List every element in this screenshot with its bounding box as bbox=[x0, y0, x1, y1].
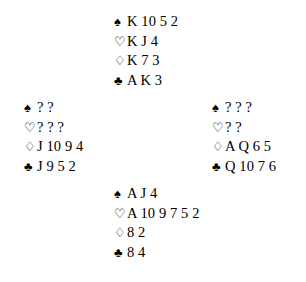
heart-icon: ♡ bbox=[114, 32, 127, 52]
north-clubs-row: ♣A K 3 bbox=[114, 71, 178, 91]
spade-icon: ♠ bbox=[114, 184, 127, 204]
club-icon: ♣ bbox=[114, 71, 127, 91]
south-spades-row: ♠A J 4 bbox=[114, 184, 200, 204]
east-spades-row: ♠? ? ? bbox=[212, 98, 276, 118]
west-spades-cards: ? ? bbox=[37, 98, 54, 118]
south-spades-cards: A J 4 bbox=[127, 184, 157, 204]
west-hearts-cards: ? ? ? bbox=[37, 118, 64, 138]
west-clubs-row: ♣J 9 5 2 bbox=[24, 157, 83, 177]
north-spades-row: ♠K 10 5 2 bbox=[114, 12, 178, 32]
south-clubs-cards: 8 4 bbox=[127, 243, 145, 263]
heart-icon: ♡ bbox=[24, 118, 37, 138]
east-hearts-row: ♡? ? bbox=[212, 118, 276, 138]
heart-icon: ♡ bbox=[114, 204, 127, 224]
heart-icon: ♡ bbox=[212, 118, 225, 138]
north-hearts-row: ♡K J 4 bbox=[114, 32, 178, 52]
club-icon: ♣ bbox=[212, 157, 225, 177]
west-clubs-cards: J 9 5 2 bbox=[37, 157, 76, 177]
east-hearts-cards: ? ? bbox=[225, 118, 242, 138]
west-diamonds-row: ♢J 10 9 4 bbox=[24, 137, 83, 157]
hand-west: ♠? ? ♡? ? ? ♢J 10 9 4 ♣J 9 5 2 bbox=[24, 98, 83, 176]
diamond-icon: ♢ bbox=[24, 137, 37, 157]
hand-south: ♠A J 4 ♡A 10 9 7 5 2 ♢8 2 ♣8 4 bbox=[114, 184, 200, 262]
west-spades-row: ♠? ? bbox=[24, 98, 83, 118]
west-hearts-row: ♡? ? ? bbox=[24, 118, 83, 138]
south-diamonds-row: ♢8 2 bbox=[114, 223, 200, 243]
diamond-icon: ♢ bbox=[114, 51, 127, 71]
east-clubs-cards: Q 10 7 6 bbox=[225, 157, 276, 177]
diamond-icon: ♢ bbox=[212, 137, 225, 157]
spade-icon: ♠ bbox=[212, 98, 225, 118]
north-diamonds-cards: K 7 3 bbox=[127, 51, 160, 71]
north-spades-cards: K 10 5 2 bbox=[127, 12, 178, 32]
north-hearts-cards: K J 4 bbox=[127, 32, 158, 52]
north-diamonds-row: ♢K 7 3 bbox=[114, 51, 178, 71]
south-clubs-row: ♣8 4 bbox=[114, 243, 200, 263]
south-hearts-row: ♡A 10 9 7 5 2 bbox=[114, 204, 200, 224]
east-diamonds-cards: A Q 6 5 bbox=[225, 137, 271, 157]
east-clubs-row: ♣Q 10 7 6 bbox=[212, 157, 276, 177]
south-hearts-cards: A 10 9 7 5 2 bbox=[127, 204, 200, 224]
bridge-deal-diagram: ♠K 10 5 2 ♡K J 4 ♢K 7 3 ♣A K 3 ♠? ? ♡? ?… bbox=[0, 0, 306, 282]
spade-icon: ♠ bbox=[114, 12, 127, 32]
east-diamonds-row: ♢A Q 6 5 bbox=[212, 137, 276, 157]
club-icon: ♣ bbox=[24, 157, 37, 177]
south-diamonds-cards: 8 2 bbox=[127, 223, 145, 243]
west-diamonds-cards: J 10 9 4 bbox=[37, 137, 83, 157]
club-icon: ♣ bbox=[114, 243, 127, 263]
spade-icon: ♠ bbox=[24, 98, 37, 118]
hand-north: ♠K 10 5 2 ♡K J 4 ♢K 7 3 ♣A K 3 bbox=[114, 12, 178, 90]
diamond-icon: ♢ bbox=[114, 223, 127, 243]
north-clubs-cards: A K 3 bbox=[127, 71, 162, 91]
east-spades-cards: ? ? ? bbox=[225, 98, 252, 118]
hand-east: ♠? ? ? ♡? ? ♢A Q 6 5 ♣Q 10 7 6 bbox=[212, 98, 276, 176]
